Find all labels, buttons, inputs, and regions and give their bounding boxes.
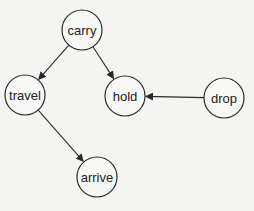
edge-travel-to-arrive <box>38 110 83 161</box>
graph-diagram: carrytravelholddroparrive <box>0 0 254 211</box>
node-hold: hold <box>105 76 145 116</box>
node-drop: drop <box>204 78 244 118</box>
node-label: hold <box>113 89 138 104</box>
node-arrive: arrive <box>77 157 117 197</box>
node-carry: carry <box>62 10 102 50</box>
node-travel: travel <box>5 75 45 115</box>
node-label: drop <box>211 91 237 106</box>
edge-drop-to-hold <box>146 96 204 97</box>
node-label: arrive <box>81 170 114 185</box>
node-label: travel <box>9 88 41 103</box>
nodes-layer: carrytravelholddroparrive <box>5 10 244 197</box>
edge-carry-to-travel <box>39 45 69 79</box>
edge-carry-to-hold <box>93 47 114 79</box>
node-label: carry <box>68 23 97 38</box>
